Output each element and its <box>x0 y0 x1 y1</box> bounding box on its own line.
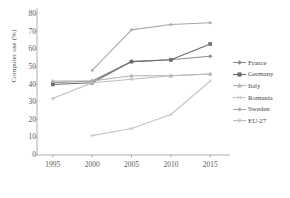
legend-marker-icon <box>232 58 247 67</box>
legend-item-romania[interactable]: Romania <box>232 92 290 104</box>
legend-item-label: Italy <box>247 82 260 90</box>
data-point-marker <box>130 28 133 31</box>
legend-item-label: EU-27 <box>247 117 266 125</box>
data-point-marker <box>209 21 212 24</box>
series-france <box>51 55 212 85</box>
data-point-marker <box>51 83 54 86</box>
data-point-marker <box>169 58 172 61</box>
data-point-marker <box>209 79 212 82</box>
data-point-marker <box>237 61 241 65</box>
legend-item-label: France <box>247 59 266 67</box>
legend-item-france[interactable]: France <box>232 57 290 69</box>
legend-marker-icon <box>232 116 247 125</box>
series-sweden <box>91 21 212 72</box>
legend-marker-icon <box>232 81 247 90</box>
x-tick-label: 2005 <box>112 160 152 169</box>
series-romania <box>91 79 212 137</box>
legend-item-germany[interactable]: Germany <box>232 69 290 81</box>
data-point-marker <box>130 60 133 63</box>
x-tick-label: 2015 <box>190 160 230 169</box>
legend-item-eu-27[interactable]: EU-27 <box>232 115 290 127</box>
legend-item-label: Romania <box>247 94 273 102</box>
legend-marker-icon <box>232 70 247 79</box>
x-tick-label: 1995 <box>33 160 73 169</box>
legend-item-italy[interactable]: Italy <box>232 80 290 92</box>
legend-marker-icon <box>232 105 247 114</box>
legend: FranceGermanyItalyRomaniaSwedenEU-27 <box>232 57 290 127</box>
data-point-marker <box>238 73 241 76</box>
data-point-marker <box>169 23 172 26</box>
legend-item-label: Sweden <box>247 105 270 113</box>
legend-item-sweden[interactable]: Sweden <box>232 103 290 115</box>
data-point-marker <box>238 107 241 110</box>
data-point-marker <box>209 42 212 45</box>
legend-item-label: Germany <box>247 70 273 78</box>
line-chart: Computer use (%) 01020304050607080 Franc… <box>0 0 290 198</box>
legend-marker-icon <box>232 93 247 102</box>
data-point-marker <box>91 69 94 72</box>
data-point-marker <box>208 55 212 59</box>
x-tick-label: 2000 <box>72 160 112 169</box>
x-tick-label: 2010 <box>151 160 191 169</box>
